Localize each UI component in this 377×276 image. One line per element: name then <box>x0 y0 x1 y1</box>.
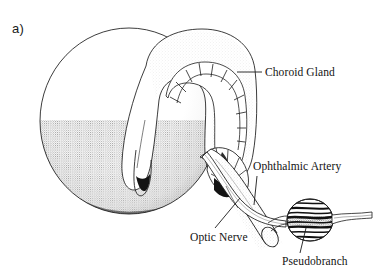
label-ophthalmic-artery: Ophthalmic Artery <box>253 160 341 172</box>
leader-optic-nerve <box>215 198 240 228</box>
anatomical-drawing <box>0 0 377 276</box>
label-optic-nerve: Optic Nerve <box>190 231 248 243</box>
panel-label: a) <box>12 21 24 36</box>
label-pseudobranch: Pseudobranch <box>282 255 348 267</box>
label-choroid-gland: Choroid Gland <box>265 66 335 78</box>
pseudobranch-structure <box>268 198 372 241</box>
figure-panel: a) Choroid Gland Ophthalmic Artery Optic… <box>0 0 377 276</box>
